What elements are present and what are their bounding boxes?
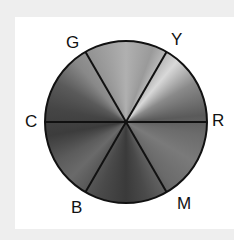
label-y: Y xyxy=(171,31,182,48)
label-c: C xyxy=(25,113,37,130)
label-g: G xyxy=(66,34,79,51)
label-r: R xyxy=(212,112,224,129)
label-b: B xyxy=(71,199,82,216)
label-m: M xyxy=(177,195,191,212)
